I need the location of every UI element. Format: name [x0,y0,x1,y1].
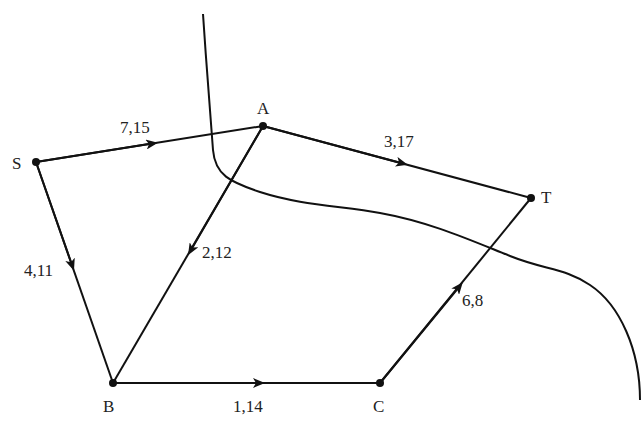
edge-label-a-t: 3,17 [384,132,414,151]
edge-label-a-b: 2,12 [202,243,232,262]
edge-label-s-b: 4,11 [24,261,53,280]
edge-a-b: 2,12 [113,126,263,383]
edge-b-c: 1,14 [113,383,380,416]
node-a: A [257,99,270,130]
node-label-t: T [541,188,552,207]
edge-label-b-c: 1,14 [233,397,263,416]
node-label-b: B [103,397,114,416]
node-s: S [12,154,40,173]
edge-label-c-t: 6,8 [462,291,483,310]
node-c: C [373,379,384,416]
edge-s-b: 4,11 [24,162,113,383]
cut-curve [203,14,640,400]
node-label-a: A [257,99,270,118]
edge-c-t: 6,8 [380,198,531,383]
network-diagram: 7,15 3,17 4,11 2,12 1,14 6,8 S A T [0,0,643,430]
node-b: B [103,379,117,416]
edge-a-t: 3,17 [263,126,531,198]
node-t: T [527,188,552,207]
edge-s-a: 7,15 [36,118,263,162]
node-label-c: C [373,397,384,416]
edge-label-s-a: 7,15 [120,118,150,137]
node-label-s: S [12,154,21,173]
